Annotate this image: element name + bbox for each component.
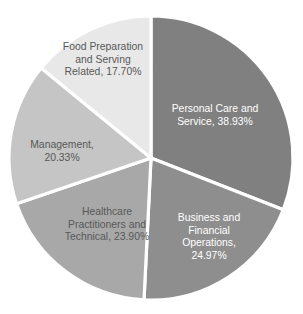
pie-chart-canvas: Personal Care andService, 38.93%Business… (0, 0, 303, 314)
pie-slices-group (9, 16, 293, 300)
pie-chart: Personal Care andService, 38.93%Business… (0, 0, 303, 314)
